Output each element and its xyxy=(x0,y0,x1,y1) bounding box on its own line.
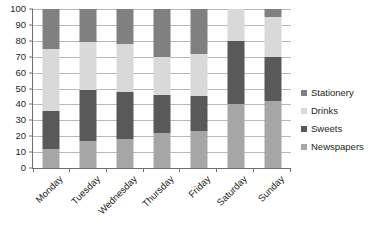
bar-segment[interactable] xyxy=(117,9,134,44)
bar-segment[interactable] xyxy=(227,104,244,168)
y-axis-tick-label: 80 xyxy=(15,36,26,46)
bar-segment[interactable] xyxy=(43,9,60,49)
x-axis-label-cell: Friday xyxy=(180,172,217,222)
bar-segment[interactable] xyxy=(154,57,171,95)
y-axis-tick-label: 100 xyxy=(10,4,26,14)
y-axis-tick-label: 60 xyxy=(15,68,26,78)
stacked-bar[interactable] xyxy=(80,9,97,168)
bar-segment[interactable] xyxy=(264,57,281,102)
stacked-bar[interactable] xyxy=(264,9,281,168)
bar-slot xyxy=(180,9,217,168)
bar-segment[interactable] xyxy=(154,9,171,57)
bar-slot xyxy=(254,9,291,168)
y-axis: 0102030405060708090100 xyxy=(0,9,30,168)
bar-segment[interactable] xyxy=(264,101,281,168)
bar-segment[interactable] xyxy=(117,92,134,140)
bar-segment[interactable] xyxy=(80,141,97,168)
y-axis-tick-label: 30 xyxy=(15,116,26,126)
bar-series-group xyxy=(33,9,291,168)
y-axis-tick-label: 70 xyxy=(15,52,26,62)
legend-swatch-icon xyxy=(301,108,307,114)
x-axis-label-cell: Saturday xyxy=(217,172,254,222)
y-axis-tick-label: 10 xyxy=(15,147,26,157)
bar-slot xyxy=(70,9,107,168)
legend-label: Drinks xyxy=(311,106,338,116)
legend-item[interactable]: Drinks xyxy=(301,102,371,120)
bar-segment[interactable] xyxy=(264,17,281,57)
bar-segment[interactable] xyxy=(227,9,244,41)
legend-item[interactable]: Newspapers xyxy=(301,138,371,156)
x-axis-tick-label: Thursday xyxy=(140,174,175,209)
legend-label: Stationery xyxy=(311,88,354,98)
bar-segment[interactable] xyxy=(190,96,207,131)
x-axis-tick-label: Friday xyxy=(187,174,212,199)
stacked-bar-chart: 0102030405060708090100 MondayTuesdayWedn… xyxy=(0,0,371,225)
bar-segment[interactable] xyxy=(43,111,60,149)
legend-label: Sweets xyxy=(311,124,342,134)
bar-segment[interactable] xyxy=(190,131,207,168)
bar-slot xyxy=(144,9,181,168)
x-axis-label-cell: Monday xyxy=(33,172,70,222)
plot-area xyxy=(33,9,291,168)
x-axis-label-cell: Thursday xyxy=(144,172,181,222)
bar-segment[interactable] xyxy=(80,42,97,90)
legend-item[interactable]: Sweets xyxy=(301,120,371,138)
stacked-bar[interactable] xyxy=(117,9,134,168)
bar-segment[interactable] xyxy=(154,133,171,168)
bar-segment[interactable] xyxy=(117,44,134,92)
stacked-bar[interactable] xyxy=(154,9,171,168)
legend-item[interactable]: Stationery xyxy=(301,84,371,102)
x-axis-tick-label: Tuesday xyxy=(69,174,101,206)
bar-segment[interactable] xyxy=(43,49,60,111)
legend-swatch-icon xyxy=(301,144,307,150)
stacked-bar[interactable] xyxy=(227,9,244,168)
y-axis-tick-label: 40 xyxy=(15,100,26,110)
bar-segment[interactable] xyxy=(154,95,171,133)
y-axis-tick-label: 0 xyxy=(21,163,26,173)
stacked-bar[interactable] xyxy=(190,9,207,168)
x-axis-label-cell: Sunday xyxy=(254,172,291,222)
bar-slot xyxy=(107,9,144,168)
legend-label: Newspapers xyxy=(311,142,364,152)
legend-swatch-icon xyxy=(301,126,307,132)
bar-segment[interactable] xyxy=(43,149,60,168)
bar-slot xyxy=(33,9,70,168)
y-axis-tick-label: 90 xyxy=(15,20,26,30)
bar-segment[interactable] xyxy=(227,41,244,105)
legend: StationeryDrinksSweetsNewspapers xyxy=(301,84,371,156)
x-axis: MondayTuesdayWednesdayThursdayFridaySatu… xyxy=(33,172,291,222)
bar-segment[interactable] xyxy=(80,90,97,141)
x-axis-label-cell: Wednesday xyxy=(107,172,144,222)
bar-segment[interactable] xyxy=(190,9,207,54)
bar-slot xyxy=(217,9,254,168)
x-axis-tick-label: Sunday xyxy=(256,174,286,204)
bar-segment[interactable] xyxy=(264,9,281,17)
bar-segment[interactable] xyxy=(117,139,134,168)
x-axis-tick-label: Saturday xyxy=(215,174,249,208)
bar-segment[interactable] xyxy=(190,54,207,97)
y-axis-tick-label: 20 xyxy=(15,131,26,141)
legend-swatch-icon xyxy=(301,90,307,96)
bar-segment[interactable] xyxy=(80,9,97,42)
x-axis-tick-label: Monday xyxy=(34,174,65,205)
stacked-bar[interactable] xyxy=(43,9,60,168)
y-axis-tick-label: 50 xyxy=(15,84,26,94)
